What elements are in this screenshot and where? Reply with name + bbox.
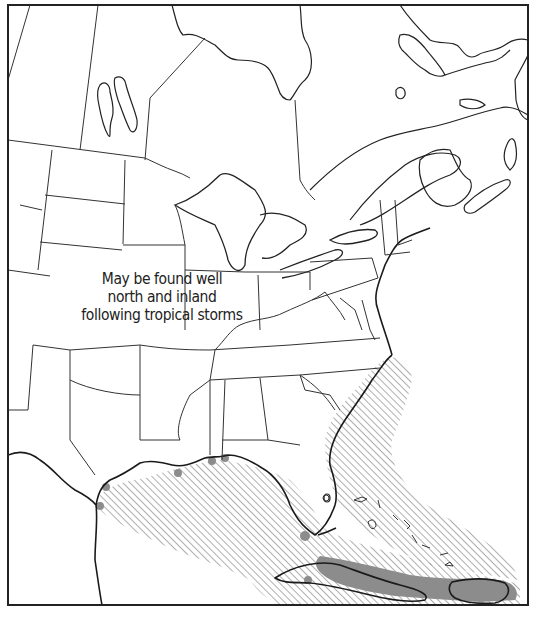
great-lakes xyxy=(175,174,377,278)
annotation-line-2: north and inland xyxy=(62,288,262,306)
annotation-line-1: May be found well xyxy=(62,270,262,288)
annotation-line-3: following tropical storms xyxy=(62,306,262,324)
canada-features xyxy=(98,5,528,225)
storm-annotation: May be found well north and inland follo… xyxy=(62,270,262,324)
